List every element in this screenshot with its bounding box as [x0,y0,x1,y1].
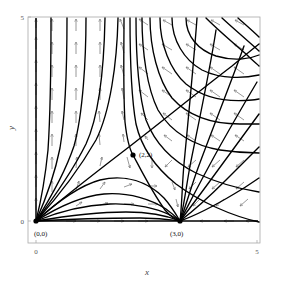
label-saddle-point: (2,2) [139,151,153,159]
y-tick-label-0: 0 [21,218,25,226]
y-tick-label-5: 5 [21,14,25,22]
label-origin-point: (0,0) [34,230,48,238]
x-axis-title: x [144,267,149,277]
phase-portrait-figure: (0,0) (3,0) (2,2) 5 0 0 5 x y [0,0,287,282]
phase-portrait-svg: (0,0) (3,0) (2,2) 5 0 0 5 x y [0,0,287,282]
label-node-point: (3,0) [170,230,184,238]
x-tick-label-5: 5 [255,248,259,256]
equilibrium-dot-3-0 [177,218,182,223]
equilibrium-dot-2-2 [130,152,135,157]
equilibrium-dot-origin [33,218,38,223]
y-axis-title: y [6,126,16,131]
x-tick-label-0: 0 [34,248,38,256]
